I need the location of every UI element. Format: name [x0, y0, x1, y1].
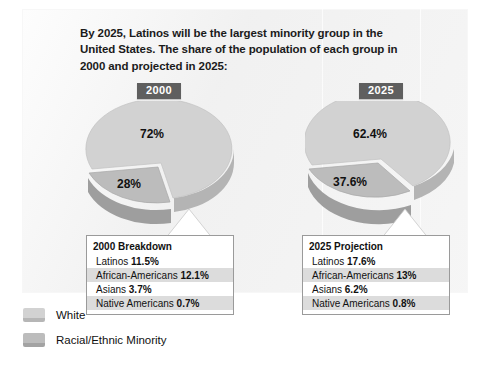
year-tag-2025: 2025 [359, 83, 403, 99]
breakdown-title-2000: 2000 Breakdown [87, 240, 233, 254]
breakdown-row-name: Asians [312, 284, 345, 295]
breakdown-row: Native Americans 0.7% [87, 296, 233, 310]
year-tag-2000: 2000 [137, 83, 181, 99]
breakdown-row: Asians 6.2% [303, 282, 449, 296]
breakdown-row: Native Americans 0.8% [303, 296, 449, 310]
breakdown-row-name: Native Americans [312, 298, 393, 309]
legend-swatch-icon [23, 333, 45, 347]
breakdown-row-value: 17.6% [347, 256, 375, 267]
breakdown-row-value: 3.7% [129, 284, 152, 295]
breakdown-row-value: 6.2% [345, 284, 368, 295]
legend-label: Racial/Ethnic Minority [56, 334, 167, 346]
breakdown-row-value: 11.5% [131, 256, 159, 267]
breakdown-row-value: 12.1% [180, 270, 208, 281]
breakdown-row-name: Native Americans [96, 298, 177, 309]
breakdown-row: Latinos 11.5% [87, 254, 233, 268]
breakdown-row-value: 0.7% [177, 298, 200, 309]
white-percentage-2000: 72% [140, 127, 164, 141]
breakdown-box-2000: 2000 Breakdown Latinos 11.5% African-Ame… [86, 235, 234, 315]
breakdown-row-name: Latinos [312, 256, 347, 267]
breakdown-row: African-Americans 13% [303, 268, 449, 282]
page-title: By 2025, Latinos will be the largest min… [80, 25, 420, 74]
legend-label: White [56, 309, 85, 321]
breakdown-row-name: African-Americans [96, 270, 180, 281]
breakdown-row: African-Americans 12.1% [87, 268, 233, 282]
breakdown-row: Asians 3.7% [87, 282, 233, 296]
breakdown-row-name: Latinos [96, 256, 131, 267]
minority-percentage-2000: 28% [117, 177, 141, 191]
infographic-panel: By 2025, Latinos will be the largest min… [22, 9, 468, 293]
minority-percentage-2025: 37.6% [333, 175, 367, 189]
breakdown-row-value: 0.8% [393, 298, 416, 309]
legend-item-minority: Racial/Ethnic Minority [23, 327, 167, 352]
breakdown-title-2025: 2025 Projection [303, 240, 449, 254]
breakdown-row-name: Asians [96, 284, 129, 295]
legend-swatch-icon [23, 308, 45, 322]
breakdown-row-value: 13% [396, 270, 416, 281]
breakdown-row-name: African-Americans [312, 270, 396, 281]
white-percentage-2025: 62.4% [353, 127, 387, 141]
breakdown-box-2025: 2025 Projection Latinos 17.6% African-Am… [302, 235, 450, 315]
breakdown-row: Latinos 17.6% [303, 254, 449, 268]
